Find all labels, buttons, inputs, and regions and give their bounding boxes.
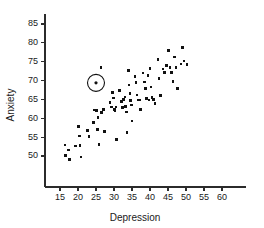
x-tick-label-40: 40	[145, 192, 155, 202]
data-point	[150, 86, 153, 89]
data-point	[124, 96, 127, 99]
data-point	[134, 75, 137, 78]
y-tick-label-75: 75	[28, 56, 38, 66]
data-point	[139, 108, 142, 111]
x-tick-label-30: 30	[109, 192, 119, 202]
data-point	[98, 143, 101, 146]
data-point	[115, 106, 118, 109]
data-point	[169, 66, 172, 69]
data-point	[112, 97, 115, 100]
circled-outlier-dot	[94, 81, 97, 84]
y-tick-label-50: 50	[28, 150, 38, 160]
data-point	[122, 98, 125, 101]
data-point	[135, 81, 138, 84]
annotations-group	[88, 74, 105, 91]
axes-group	[45, 14, 246, 187]
data-point	[186, 63, 189, 66]
data-point	[125, 111, 128, 114]
data-points-group	[64, 46, 189, 161]
data-point	[159, 94, 162, 97]
y-tick-label-65: 65	[28, 94, 38, 104]
data-point	[157, 58, 160, 61]
data-point	[68, 158, 71, 161]
data-point	[172, 80, 175, 83]
y-tick-label-70: 70	[28, 75, 38, 85]
tick-labels-group: 505560657075808515202530354045505560	[28, 18, 227, 202]
data-point	[114, 110, 117, 113]
y-tick-label-55: 55	[28, 132, 38, 142]
data-point	[67, 149, 70, 152]
data-point	[176, 87, 179, 90]
plot-canvas: 505560657075808515202530354045505560 Dep…	[0, 0, 264, 228]
data-point	[167, 49, 170, 52]
x-tick-label-25: 25	[91, 192, 101, 202]
data-point	[97, 116, 100, 119]
data-point	[109, 101, 112, 104]
ticks-group	[41, 24, 222, 191]
y-tick-label-60: 60	[28, 113, 38, 123]
data-point	[126, 131, 129, 134]
data-point	[100, 111, 103, 114]
data-point	[183, 60, 186, 63]
data-point	[144, 87, 147, 90]
data-point	[148, 99, 151, 102]
data-point	[162, 68, 165, 71]
data-point	[100, 66, 103, 69]
data-point	[115, 138, 118, 141]
data-point	[129, 99, 132, 102]
data-point	[74, 145, 77, 148]
data-point	[129, 92, 132, 95]
data-point	[152, 98, 155, 101]
data-point	[143, 81, 146, 84]
y-axis-title: Anxiety	[5, 89, 16, 122]
data-point	[147, 74, 150, 77]
data-point	[138, 99, 141, 102]
data-point	[154, 102, 157, 105]
data-point	[121, 106, 124, 109]
x-tick-label-55: 55	[199, 192, 209, 202]
data-point	[92, 121, 95, 124]
data-point	[120, 100, 123, 103]
data-point	[95, 109, 98, 112]
data-point	[124, 105, 127, 108]
data-point	[86, 129, 89, 132]
data-point	[149, 67, 152, 70]
data-point	[88, 135, 91, 138]
data-point	[103, 130, 106, 133]
data-point	[180, 63, 183, 66]
y-tick-label-85: 85	[28, 18, 38, 28]
data-point	[130, 104, 133, 107]
data-point	[127, 69, 130, 72]
data-point	[80, 156, 83, 159]
data-point	[102, 108, 105, 111]
data-point	[78, 135, 81, 138]
data-point	[173, 56, 176, 59]
data-point	[163, 71, 166, 74]
data-point	[142, 72, 145, 75]
data-point	[118, 89, 121, 92]
x-tick-label-15: 15	[55, 192, 65, 202]
scatter-plot-figure: 505560657075808515202530354045505560 Dep…	[0, 0, 264, 228]
data-point	[79, 144, 82, 147]
data-point	[128, 84, 131, 87]
x-tick-label-20: 20	[73, 192, 83, 202]
x-tick-label-50: 50	[181, 192, 191, 202]
data-point	[145, 97, 148, 100]
data-point	[96, 128, 99, 131]
x-tick-label-35: 35	[127, 192, 137, 202]
x-tick-label-45: 45	[163, 192, 173, 202]
data-point	[77, 125, 80, 128]
x-axis-title: Depression	[110, 212, 161, 223]
data-point	[181, 46, 184, 49]
x-tick-label-60: 60	[217, 192, 227, 202]
y-tick-label-80: 80	[28, 37, 38, 47]
data-point	[64, 144, 67, 147]
data-point	[136, 94, 139, 97]
data-point	[158, 77, 161, 80]
data-point	[170, 71, 173, 74]
data-point	[64, 154, 67, 157]
data-point	[131, 120, 134, 123]
data-point	[175, 66, 178, 69]
data-point	[111, 91, 114, 94]
data-point	[165, 64, 168, 67]
